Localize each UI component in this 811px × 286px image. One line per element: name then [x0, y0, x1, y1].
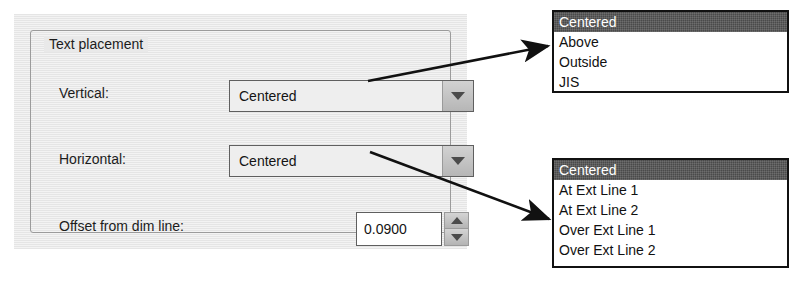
text-placement-panel: Text placement Vertical: Centered Horizo…	[14, 14, 467, 249]
vertical-combobox-value: Centered	[230, 88, 442, 104]
vertical-options-list[interactable]: Centered Above Outside JIS	[552, 10, 789, 93]
vertical-label: Vertical:	[59, 85, 109, 102]
horizontal-label: Horizontal:	[59, 151, 126, 168]
list-item[interactable]: At Ext Line 1	[554, 180, 787, 200]
list-item[interactable]: Over Ext Line 1	[554, 220, 787, 240]
offset-increment-button[interactable]	[444, 212, 469, 229]
horizontal-options-list[interactable]: Centered At Ext Line 1 At Ext Line 2 Ove…	[552, 158, 789, 268]
offset-input[interactable]: 0.0900	[356, 212, 442, 246]
list-item[interactable]: Centered	[554, 12, 787, 32]
offset-decrement-button[interactable]	[444, 229, 469, 246]
offset-spinner-buttons	[444, 212, 469, 246]
horizontal-combobox-dropdown-button[interactable]	[442, 146, 473, 176]
list-item[interactable]: Outside	[554, 52, 787, 72]
text-placement-groupbox	[30, 30, 451, 233]
screenshot-canvas: Text placement Vertical: Centered Horizo…	[0, 0, 811, 286]
chevron-down-icon	[451, 92, 465, 100]
horizontal-combobox[interactable]: Centered	[229, 145, 474, 177]
vertical-combobox-dropdown-button[interactable]	[442, 81, 473, 111]
list-item[interactable]: JIS	[554, 72, 787, 92]
offset-spinner[interactable]: 0.0900	[356, 212, 469, 246]
groupbox-title: Text placement	[44, 36, 148, 52]
triangle-up-icon	[451, 217, 463, 224]
list-item[interactable]: At Ext Line 2	[554, 200, 787, 220]
vertical-combobox[interactable]: Centered	[229, 80, 474, 112]
triangle-down-icon	[451, 234, 463, 241]
list-item[interactable]: Over Ext Line 2	[554, 240, 787, 260]
offset-label: Offset from dim line:	[59, 218, 184, 235]
chevron-down-icon	[451, 157, 465, 165]
horizontal-combobox-value: Centered	[230, 153, 442, 169]
list-item[interactable]: Centered	[554, 160, 787, 180]
list-item[interactable]: Above	[554, 32, 787, 52]
